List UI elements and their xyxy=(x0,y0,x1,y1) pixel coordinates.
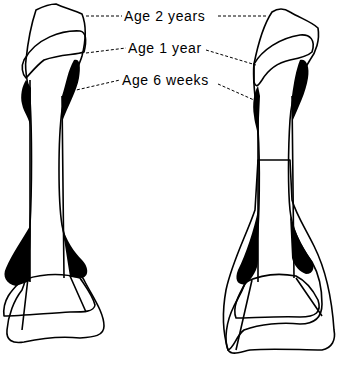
bone-growth-diagram: Age 2 years Age 1 year Age 6 weeks xyxy=(0,0,345,372)
leader-1yr-left xyxy=(86,48,126,53)
leader-1yr-right xyxy=(206,50,256,65)
left-6wk-bottom-right-black xyxy=(62,226,87,278)
leader-6wk-right xyxy=(218,84,254,100)
label-age-6-weeks: Age 6 weeks xyxy=(122,72,209,88)
left-bone xyxy=(4,4,104,343)
label-age-2-years: Age 2 years xyxy=(124,8,205,24)
left-bottom-cross-lines xyxy=(22,276,86,330)
right-bottom-cross-lines xyxy=(236,278,322,350)
label-age-1-year: Age 1 year xyxy=(128,40,202,56)
labels: Age 2 years Age 1 year Age 6 weeks xyxy=(72,8,268,100)
leader-6wk-left xyxy=(72,80,120,91)
